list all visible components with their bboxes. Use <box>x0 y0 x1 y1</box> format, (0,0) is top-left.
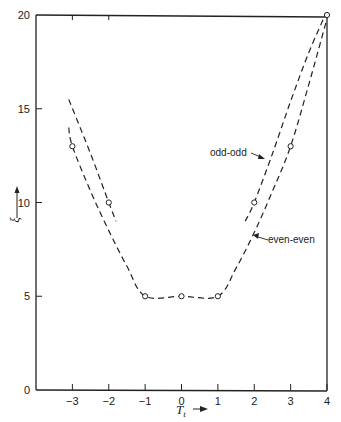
annotation-odd-odd: odd-odd <box>210 147 265 159</box>
x-tick-label: −1 <box>139 395 152 407</box>
y-axis-label: ξ <box>7 217 22 223</box>
odd-odd-label: odd-odd <box>210 147 247 158</box>
y-tick-label: 15 <box>18 103 30 115</box>
series-layer <box>69 15 327 298</box>
data-point-marker <box>106 200 111 205</box>
y-tick-label: 20 <box>18 9 30 21</box>
data-point-marker <box>215 294 220 299</box>
x-tick-label: 4 <box>324 395 330 407</box>
odd-odd-curve <box>245 15 325 221</box>
x-axis-title: Tt <box>176 402 208 419</box>
top-frame <box>36 15 327 17</box>
data-point-marker <box>252 200 257 205</box>
plot-frame <box>36 15 327 391</box>
x-tick-label: 2 <box>251 395 257 407</box>
x-tick-label: −2 <box>102 395 115 407</box>
data-point-marker <box>70 144 75 149</box>
even-even-curve <box>69 19 327 299</box>
data-point-marker <box>324 12 329 17</box>
x-axis <box>36 390 327 391</box>
arrow-head-icon <box>200 406 208 412</box>
ticks <box>36 15 327 390</box>
annotation-even-even: even-even <box>253 233 315 245</box>
x-axis-label-main: Tt <box>176 402 186 419</box>
arrow-head-icon <box>15 186 20 193</box>
chart: −3−2−10123405101520 odd-odd even-even ξ … <box>0 0 341 422</box>
y-tick-label: 0 <box>24 384 30 396</box>
arrow-head-icon <box>258 154 265 159</box>
data-point-marker <box>179 294 184 299</box>
y-tick-label: 5 <box>24 290 30 302</box>
data-markers <box>70 12 330 298</box>
x-tick-label: 1 <box>215 395 221 407</box>
x-tick-label: 3 <box>288 395 294 407</box>
data-point-marker <box>143 294 148 299</box>
tick-labels: −3−2−10123405101520 <box>18 9 330 407</box>
even-even-label: even-even <box>268 234 315 245</box>
data-point-marker <box>288 144 293 149</box>
y-tick-label: 10 <box>18 197 30 209</box>
x-tick-label: −3 <box>66 395 79 407</box>
